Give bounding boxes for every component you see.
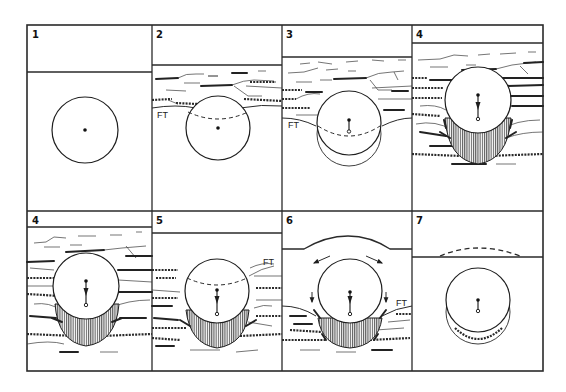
ft-annotation: FT	[396, 298, 407, 308]
panel-4-top: 4	[412, 29, 543, 164]
panel-6: 6 FT	[282, 215, 412, 352]
origin-point	[347, 130, 350, 133]
panel-3: 3 FT	[282, 29, 412, 166]
center-dot	[84, 279, 88, 283]
ft-leader	[249, 266, 274, 276]
panel-label: 7	[416, 215, 423, 226]
ft-annotation: FT	[157, 110, 168, 120]
center-dot	[216, 126, 220, 130]
panel-label: 3	[286, 29, 293, 40]
panel-label: 2	[156, 29, 163, 40]
panel-5: 5	[0, 0, 282, 352]
origin-point	[476, 117, 479, 120]
ft-annotation: FT	[288, 120, 299, 130]
center-dot	[215, 288, 219, 292]
panel-2: 2 FT	[152, 29, 282, 160]
origin-point	[476, 309, 479, 312]
flow-arrow-left	[314, 256, 330, 263]
panel-7: 7	[412, 215, 543, 344]
diagram-figure: 1 2 FT	[0, 0, 566, 392]
origin-point	[215, 312, 218, 315]
panel-1: 1	[27, 29, 152, 163]
origin-point	[84, 303, 87, 306]
center-dot	[348, 290, 352, 294]
water-surface-bulge	[282, 236, 412, 249]
origin-point	[348, 312, 351, 315]
center-dot	[476, 298, 480, 302]
panel-label: 5	[156, 215, 163, 226]
panel-4-bottom: 4	[27, 215, 152, 352]
center-dot	[83, 128, 87, 132]
former-surface-dashed	[440, 248, 520, 256]
panel-label: 6	[286, 215, 293, 226]
flow-arrow-right	[366, 256, 382, 263]
center-dot	[347, 118, 351, 122]
ft-annotation: FT	[263, 257, 274, 267]
panel-label: 1	[32, 29, 39, 40]
center-dot	[476, 93, 480, 97]
panel-label: 4	[416, 29, 423, 40]
panel-label: 4	[32, 215, 39, 226]
